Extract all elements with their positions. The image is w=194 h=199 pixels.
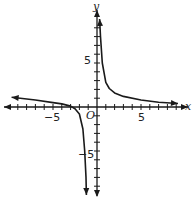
x-axis-left-arrow-icon — [4, 104, 11, 110]
x-tick-label-5: 5 — [138, 112, 145, 123]
y-tick-label-neg5: −5 — [78, 149, 94, 160]
x-axis-label: x — [185, 101, 191, 112]
curve-arrow-icon — [171, 100, 178, 106]
graph-plot — [0, 0, 194, 199]
y-tick-label-5: 5 — [84, 55, 91, 66]
curve-arrow-icon — [97, 19, 103, 26]
y-axis-label: y — [93, 1, 99, 12]
x-tick-label-neg5: −5 — [44, 112, 60, 123]
right-branch-curve — [100, 19, 178, 104]
origin-label: O — [86, 110, 95, 121]
curve-arrow-icon — [83, 188, 89, 195]
y-axis-down-arrow-icon — [94, 190, 100, 197]
